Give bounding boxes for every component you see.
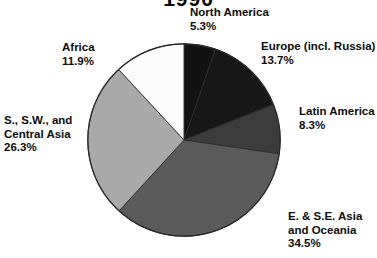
- slice-label-percent: 5.3%: [190, 20, 269, 34]
- slice-label-percent: 13.7%: [261, 54, 375, 68]
- slice-label-percent: 8.3%: [299, 119, 375, 133]
- slice-label-percent: 11.9%: [62, 55, 95, 69]
- slice-label-name-line1: S., S.W., and: [4, 114, 72, 128]
- slice-label-name-line2: Central Asia: [4, 128, 72, 142]
- slice-label-name: Latin America: [299, 105, 375, 119]
- slice-label-latin-america: Latin America 8.3%: [299, 105, 375, 132]
- slice-label-name-line2: and Oceania: [288, 224, 362, 238]
- slice-label-name: Africa: [62, 41, 95, 55]
- slice-label-africa: Africa 11.9%: [62, 41, 95, 68]
- slice-label-name-line1: E. & S.E. Asia: [288, 210, 362, 224]
- pie-slice-group: [88, 44, 280, 236]
- slice-label-europe: Europe (incl. Russia) 13.7%: [261, 40, 375, 67]
- slice-label-percent: 26.3%: [4, 141, 72, 155]
- slice-label-name: North America: [190, 6, 269, 20]
- pie-chart: [87, 43, 281, 237]
- slice-label-south-central-asia: S., S.W., and Central Asia 26.3%: [4, 114, 72, 155]
- chart-title: 1990: [0, 0, 377, 11]
- slice-label-name: Europe (incl. Russia): [261, 40, 375, 54]
- pie-chart-figure: 1990 North America 5.3% Europe (incl. Ru…: [0, 0, 377, 258]
- slice-label-east-southeast-asia: E. & S.E. Asia and Oceania 34.5%: [288, 210, 362, 251]
- slice-label-percent: 34.5%: [288, 237, 362, 251]
- slice-label-north-america: North America 5.3%: [190, 6, 269, 33]
- pie-svg: [87, 43, 281, 237]
